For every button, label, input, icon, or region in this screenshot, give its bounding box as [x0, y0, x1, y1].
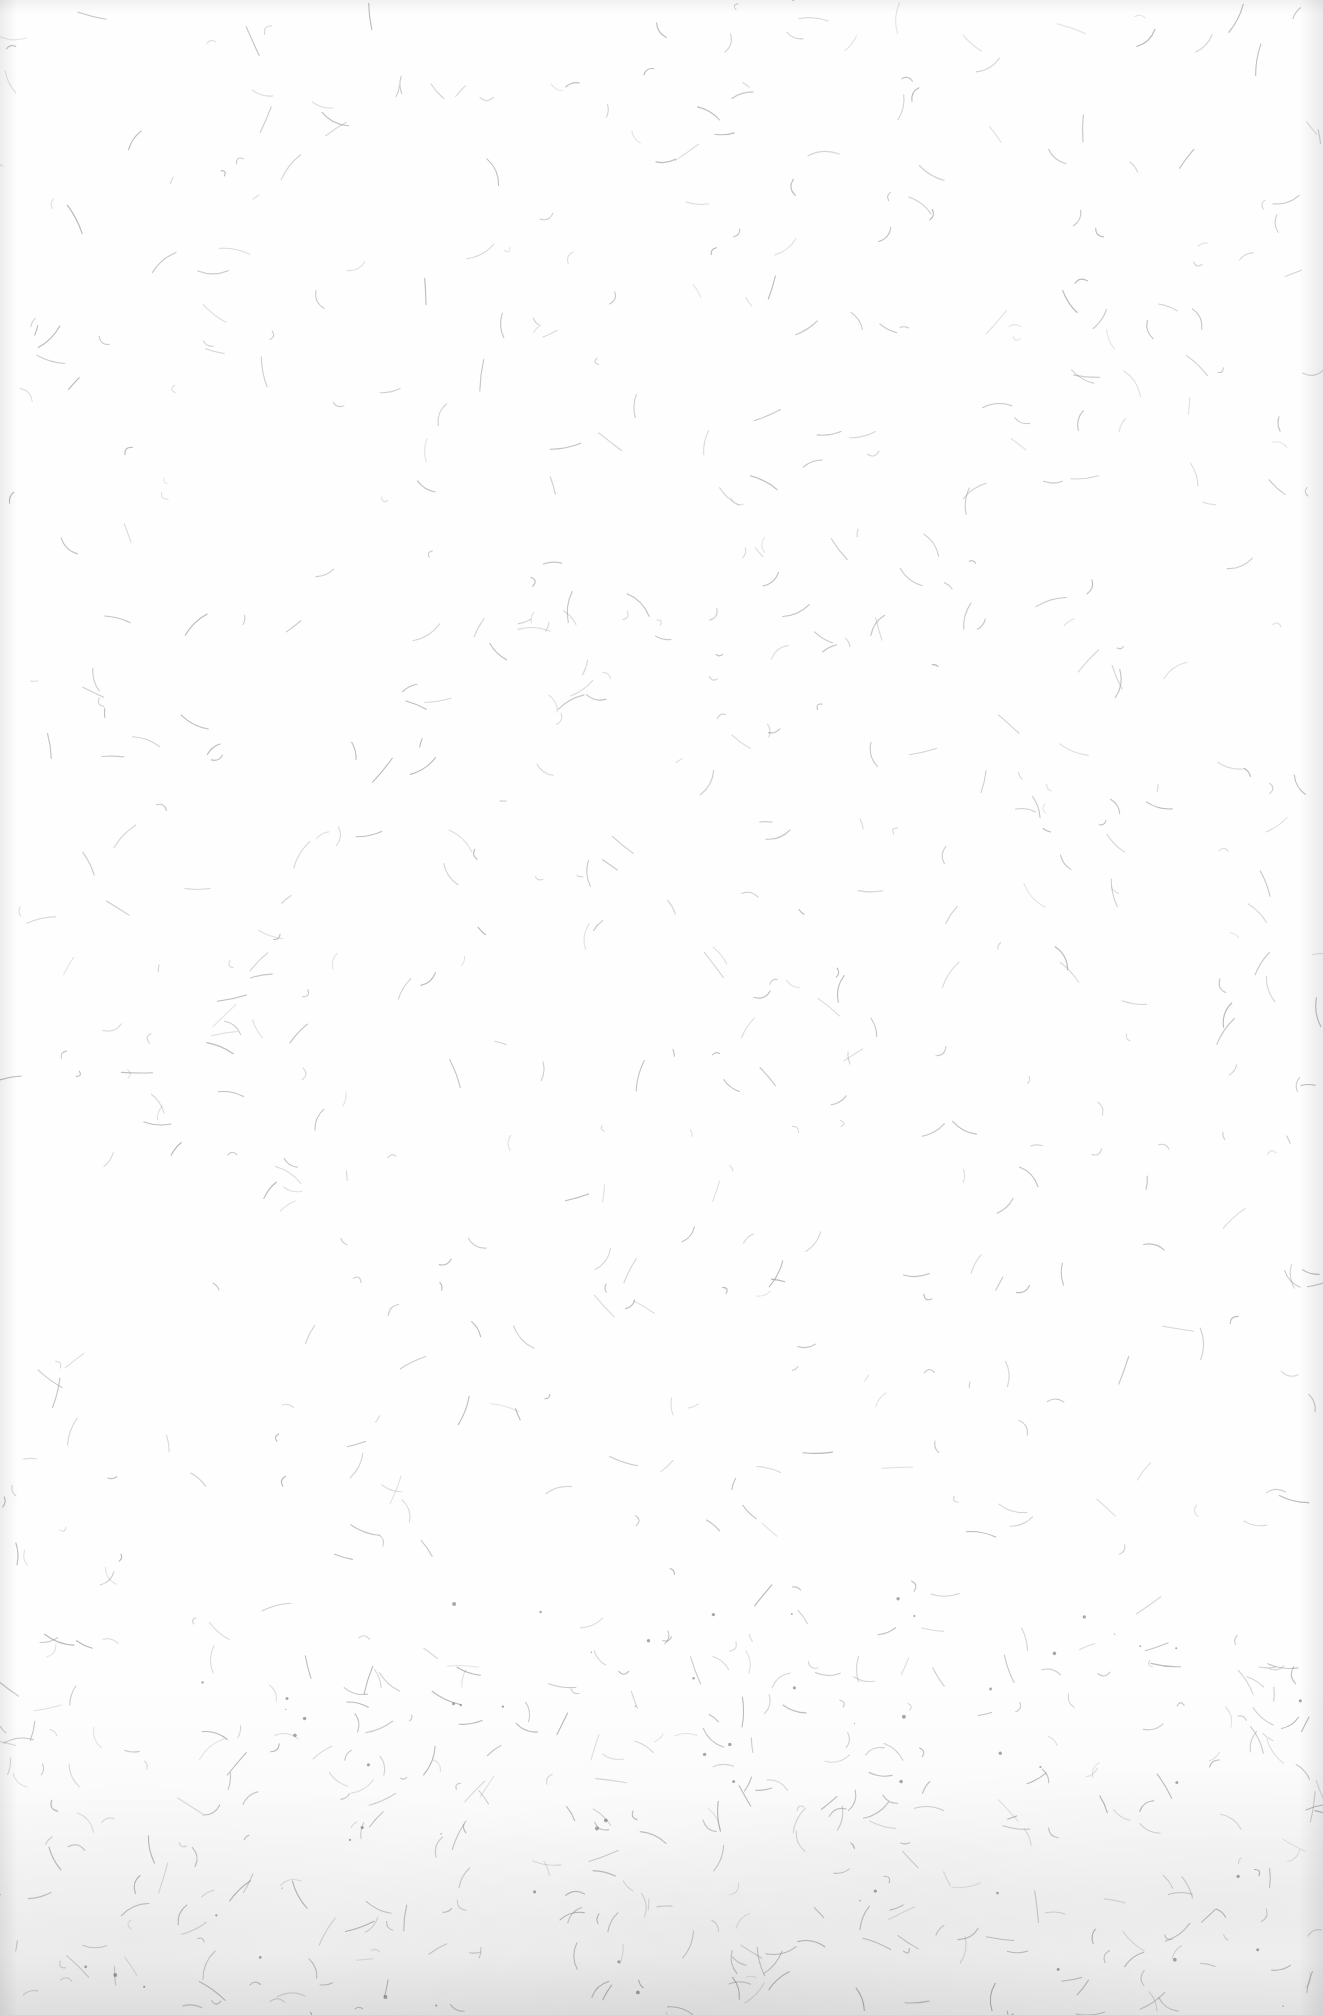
blank-paper-page	[0, 0, 1323, 2015]
paper-fiber-texture	[0, 0, 1323, 2015]
